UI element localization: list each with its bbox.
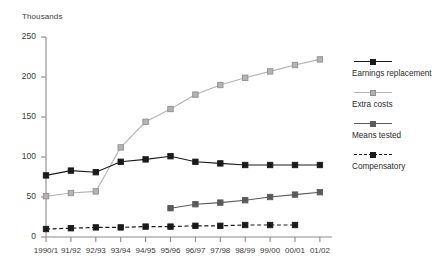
data-point-marker xyxy=(68,168,73,173)
data-point-marker xyxy=(292,222,297,227)
legend-marker xyxy=(370,90,376,96)
data-point-marker xyxy=(143,119,148,124)
data-point-marker xyxy=(193,92,198,97)
legend-item-label: Compensatory xyxy=(352,161,448,172)
legend-swatch-icon xyxy=(354,87,392,98)
data-point-marker xyxy=(243,162,248,167)
series-means-tested xyxy=(168,190,323,211)
series-line xyxy=(46,59,320,196)
y-axis-unit-label: Thousands xyxy=(22,12,62,21)
data-point-marker xyxy=(218,223,223,228)
y-axis-tick-label: 250 xyxy=(12,31,36,41)
data-point-marker xyxy=(267,194,272,199)
legend-item-label: Extra costs xyxy=(352,99,448,110)
legend-swatch-icon xyxy=(354,149,392,160)
data-point-marker xyxy=(168,206,173,211)
data-point-marker xyxy=(243,222,248,227)
data-point-marker xyxy=(193,223,198,228)
legend-swatch-icon xyxy=(354,56,392,67)
legend-item-earnings-replacement[interactable]: Earnings replacement xyxy=(352,56,448,79)
chart-legend: Earnings replacementExtra costsMeans tes… xyxy=(352,56,448,180)
data-point-marker xyxy=(143,224,148,229)
data-point-marker xyxy=(43,173,48,178)
legend-item-means-tested[interactable]: Means tested xyxy=(352,118,448,141)
data-point-marker xyxy=(193,202,198,207)
x-axis-tick-label: 96/97 xyxy=(185,246,205,255)
legend-item-extra-costs[interactable]: Extra costs xyxy=(352,87,448,110)
data-point-marker xyxy=(267,162,272,167)
x-axis-tick-label: 01/02 xyxy=(310,246,330,255)
data-point-marker xyxy=(218,82,223,87)
x-axis-tick-label: 1990/1 xyxy=(34,246,58,255)
data-point-marker xyxy=(168,154,173,159)
series-earnings-replacement xyxy=(43,154,322,179)
data-point-marker xyxy=(168,106,173,111)
y-axis-tick-label: 150 xyxy=(12,111,36,121)
data-point-marker xyxy=(243,75,248,80)
legend-item-label: Earnings replacement xyxy=(352,68,448,79)
x-axis-tick-label: 00/01 xyxy=(285,246,305,255)
data-point-marker xyxy=(317,162,322,167)
data-point-marker xyxy=(68,226,73,231)
data-point-marker xyxy=(292,62,297,67)
chart-container: Thousands 050100150200250 1990/191/9292/… xyxy=(0,0,448,274)
data-point-marker xyxy=(243,198,248,203)
legend-marker xyxy=(370,152,376,158)
data-point-marker xyxy=(292,162,297,167)
x-axis-tick-label: 98/99 xyxy=(235,246,255,255)
data-point-marker xyxy=(317,57,322,62)
data-point-marker xyxy=(267,222,272,227)
data-point-marker xyxy=(267,69,272,74)
legend-item-label: Means tested xyxy=(352,130,448,141)
data-point-marker xyxy=(143,157,148,162)
x-axis-tick-label: 93/94 xyxy=(111,246,131,255)
x-axis-tick-label: 92/93 xyxy=(86,246,106,255)
legend-marker xyxy=(370,121,376,127)
data-point-marker xyxy=(93,170,98,175)
data-point-marker xyxy=(118,225,123,230)
data-point-marker xyxy=(292,192,297,197)
data-point-marker xyxy=(193,159,198,164)
data-point-marker xyxy=(218,161,223,166)
x-axis-tick-label: 95/96 xyxy=(160,246,180,255)
data-point-marker xyxy=(93,189,98,194)
x-axis-tick-label: 99/00 xyxy=(260,246,280,255)
data-point-marker xyxy=(43,226,48,231)
legend-item-compensatory[interactable]: Compensatory xyxy=(352,149,448,172)
data-point-marker xyxy=(118,145,123,150)
data-point-marker xyxy=(93,225,98,230)
data-point-marker xyxy=(317,190,322,195)
data-point-marker xyxy=(218,200,223,205)
x-axis-tick-label: 91/92 xyxy=(61,246,81,255)
legend-marker xyxy=(370,59,376,65)
legend-swatch-icon xyxy=(354,118,392,129)
data-point-marker xyxy=(68,190,73,195)
x-axis-tick-label: 97/98 xyxy=(210,246,230,255)
y-axis-tick-label: 0 xyxy=(12,231,36,241)
x-axis-tick-label: 94/95 xyxy=(136,246,156,255)
series-compensatory xyxy=(43,222,297,231)
y-axis-tick-label: 200 xyxy=(12,71,36,81)
data-point-marker xyxy=(43,194,48,199)
data-point-marker xyxy=(118,159,123,164)
series-extra-costs xyxy=(43,57,322,199)
data-point-marker xyxy=(168,224,173,229)
y-axis-tick-label: 100 xyxy=(12,151,36,161)
series-line xyxy=(46,156,320,175)
y-axis-tick-label: 50 xyxy=(12,191,36,201)
